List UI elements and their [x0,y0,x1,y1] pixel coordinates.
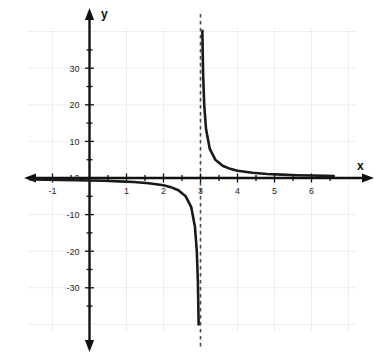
x-tick-label: -1 [48,186,56,196]
y-tick-label: 0 [74,173,79,183]
x-tick-label: 6 [309,186,314,196]
graph-figure: -1123456-30-20-100102030 x y [0,0,381,359]
x-tick-label: 4 [235,186,240,196]
x-tick-label: 5 [272,186,277,196]
y-tick-label: 10 [69,137,79,147]
y-tick-label: -20 [66,247,79,257]
y-tick-label: 30 [69,64,79,74]
y-tick-label: -10 [66,210,79,220]
y-tick-label: -30 [66,283,79,293]
x-tick-label: 2 [161,186,166,196]
cartesian-plot: -1123456-30-20-100102030 x y [0,0,381,359]
x-tick-label: 1 [124,186,129,196]
y-axis-label: y [101,7,108,21]
x-tick-label: 3 [198,186,203,196]
x-axis-label: x [357,159,364,173]
y-tick-label: 20 [69,100,79,110]
